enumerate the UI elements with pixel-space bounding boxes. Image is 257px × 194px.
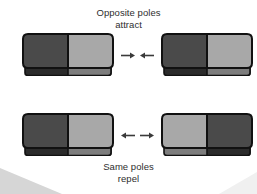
magnet-poles-figure: Opposite poles attract (0, 0, 257, 194)
arrow-right-icon (139, 128, 155, 141)
magnet-body (20, 32, 116, 76)
magnet-top-right (155, 28, 257, 80)
magnet-bottom-right (155, 108, 257, 160)
magnet-row-attract (0, 28, 257, 80)
magnet-row-repel (0, 108, 257, 160)
magnet-body (20, 112, 116, 156)
arrow-left-icon (120, 128, 136, 141)
arrow-left-icon (139, 48, 155, 61)
arrow-right-icon (120, 48, 136, 61)
caption-attract: Opposite poles attract (0, 7, 257, 30)
magnet-body (159, 112, 255, 156)
magnet-body (159, 32, 255, 76)
caption-repel: Same poles repel (0, 161, 257, 184)
arrow-pair-attract (120, 28, 155, 80)
magnet-top-left (16, 28, 120, 80)
arrow-pair-repel (120, 108, 155, 160)
magnet-bottom-left (16, 108, 120, 160)
